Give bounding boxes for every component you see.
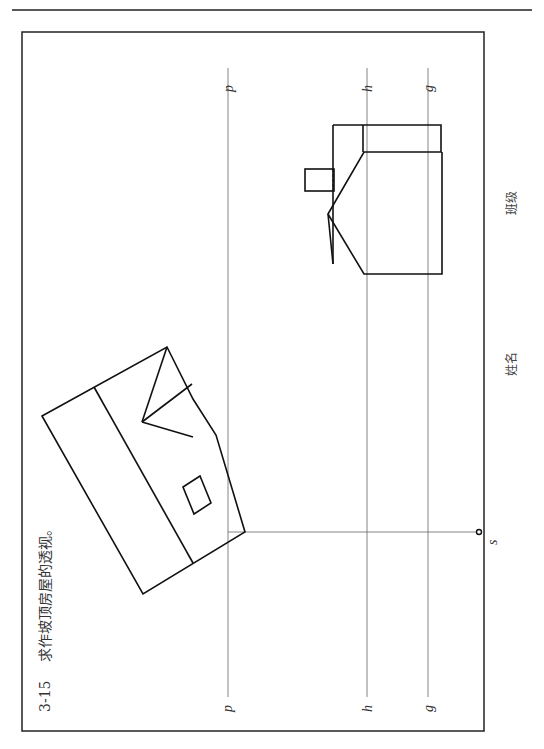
label-h-top: h (360, 85, 376, 92)
label-g-bottom: g (421, 705, 437, 712)
drawing-canvas (0, 0, 544, 749)
exercise-number: 3-15 (37, 681, 53, 712)
label-p-top: p (221, 85, 237, 92)
drawing-frame (22, 32, 484, 731)
class-label: 班级 (502, 191, 519, 215)
label-s: s (485, 540, 501, 545)
station-point-marker (477, 530, 482, 535)
label-p-bottom: p (220, 705, 236, 712)
house-plan-view (42, 347, 245, 594)
label-g-top: g (421, 85, 437, 92)
label-h-bottom: h (360, 705, 376, 712)
house-elevation-view (305, 125, 442, 274)
name-label: 姓名 (502, 352, 519, 376)
exercise-text: 求作坡顶房屋的透视。 (37, 522, 53, 662)
exercise-title: 3-15 求作坡顶房屋的透视。 (34, 522, 54, 712)
